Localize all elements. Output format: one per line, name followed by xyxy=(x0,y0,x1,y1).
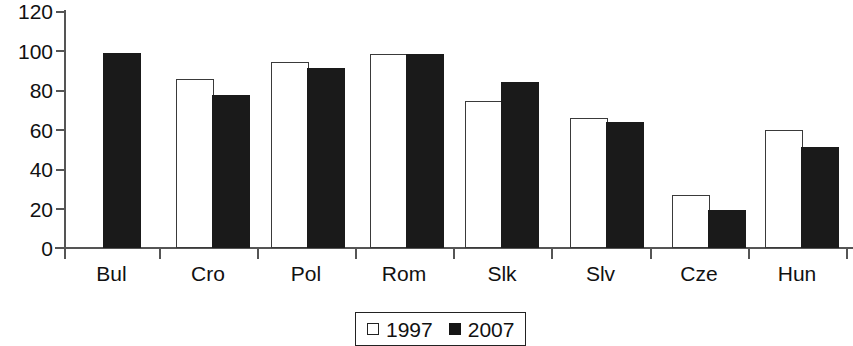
x-tick xyxy=(257,249,259,259)
x-tick xyxy=(453,249,455,259)
bar-2007 xyxy=(406,54,444,248)
x-tick-label-rom: Rom xyxy=(355,262,453,285)
bar-1997 xyxy=(176,79,214,248)
filled-square-swatch-icon xyxy=(449,323,461,335)
legend-label-1997: 1997 xyxy=(386,319,433,340)
x-tick-label-slv: Slv xyxy=(551,262,650,285)
x-tick xyxy=(551,249,553,259)
legend-entry-2007: 2007 xyxy=(449,319,515,340)
x-tick-label-bul: Bul xyxy=(64,262,159,285)
x-tick-label-pol: Pol xyxy=(257,262,355,285)
bar-2007 xyxy=(606,122,644,248)
chart-legend: 1997 2007 xyxy=(355,312,526,346)
bar-2007 xyxy=(103,53,141,248)
x-tick-label-cze: Cze xyxy=(650,262,748,285)
bar-2007 xyxy=(501,82,539,248)
bars-layer xyxy=(0,0,853,248)
bar-1997 xyxy=(271,62,309,248)
x-tick xyxy=(355,249,357,259)
x-tick-label-slk: Slk xyxy=(453,262,551,285)
x-tick xyxy=(64,249,66,259)
bar-1997 xyxy=(570,118,608,248)
bar-1997 xyxy=(370,54,408,248)
legend-entry-1997: 1997 xyxy=(367,319,433,340)
x-tick xyxy=(846,249,848,259)
legend-label-2007: 2007 xyxy=(468,319,515,340)
bar-1997 xyxy=(672,195,710,248)
bar-2007 xyxy=(801,147,839,248)
bar-2007 xyxy=(708,210,746,248)
x-tick xyxy=(650,249,652,259)
bar-1997 xyxy=(765,130,803,248)
x-tick-label-cro: Cro xyxy=(159,262,257,285)
x-tick-label-hun: Hun xyxy=(748,262,846,285)
bar-1997 xyxy=(465,101,503,248)
bar-2007 xyxy=(212,95,250,248)
x-tick xyxy=(748,249,750,259)
x-tick xyxy=(159,249,161,259)
open-square-swatch-icon xyxy=(367,323,379,335)
bar-2007 xyxy=(307,68,345,248)
